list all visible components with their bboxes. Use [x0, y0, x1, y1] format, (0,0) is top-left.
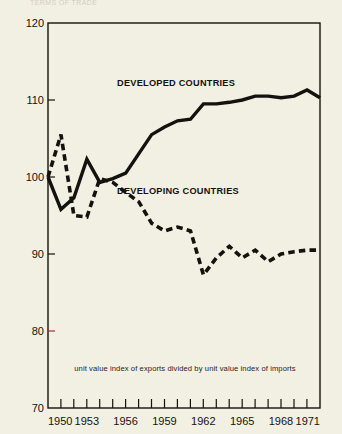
x-tick-label-1956: 1956	[113, 415, 137, 427]
terms-of-trade-chart: 120 110 100 90 80 70	[0, 0, 342, 434]
y-tick-label-80: 80	[32, 325, 44, 337]
chart-caption: unit value index of exports divided by u…	[74, 364, 296, 373]
x-axis-ticks	[61, 399, 307, 408]
y-tick-110: 110	[26, 94, 55, 106]
y-tick-label-120: 120	[26, 17, 44, 29]
series-line-developing-countries	[48, 135, 320, 275]
x-tick-label-1962: 1962	[191, 415, 215, 427]
x-tick-label-1971: 1971	[296, 415, 320, 427]
y-tick-label-110: 110	[26, 94, 44, 106]
y-tick-label-70: 70	[32, 402, 44, 414]
series-label-developed: DEVELOPED COUNTRIES	[117, 78, 235, 88]
chart-figure: TERMS OF TRADE 120 110 100 90 80	[0, 0, 342, 434]
series-label-developing: DEVELOPING COUNTRIES	[117, 186, 239, 196]
y-tick-70: 70	[32, 402, 44, 414]
y-tick-80: 80	[32, 325, 55, 337]
y-tick-90: 90	[32, 248, 55, 260]
x-axis-labels: 1950 1953 1956 1959 1962 1965 1968 1971	[48, 415, 320, 427]
x-tick-label-1965: 1965	[230, 415, 254, 427]
y-axis: 120 110 100 90 80 70	[26, 17, 55, 414]
x-tick-label-1950: 1950	[48, 415, 72, 427]
x-tick-label-1953: 1953	[75, 415, 99, 427]
y-tick-label-90: 90	[32, 248, 44, 260]
y-tick-label-100: 100	[26, 171, 44, 183]
x-tick-label-1968: 1968	[269, 415, 293, 427]
y-tick-120: 120	[26, 17, 44, 29]
x-tick-label-1959: 1959	[152, 415, 176, 427]
